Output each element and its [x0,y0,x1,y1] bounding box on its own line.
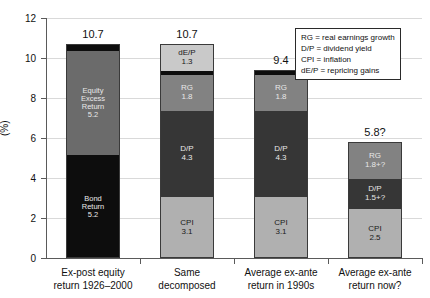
bar-segment: CPI3.1 [161,197,213,258]
y-axis-tick [41,138,46,139]
bar-segment: CPI2.5 [349,209,401,258]
bar-segment-value: 4.3 [275,154,286,163]
x-axis-category-line: Ex-post equity [54,267,133,280]
x-axis-category-label: Samedecomposed [158,267,215,292]
x-axis-tick [328,259,329,264]
legend-entry: dE/P = repricing gains [301,65,395,76]
y-axis-tick-label: 10 [25,53,36,64]
bar-segment-value: 3.1 [181,228,192,237]
bar-segment-divider [161,71,213,75]
legend-entry: RG = real earnings growth [301,32,395,43]
chart-container: 024681012 (%) BondReturn5.2EquityExcessR… [0,0,430,298]
bar-total-label: 9.4 [273,54,288,66]
bar-segment: dE/P1.3 [161,45,213,71]
y-axis-tick [41,58,46,59]
bar-stack: CPI3.1D/P4.3RG1.8 [254,70,308,258]
y-axis-tick [41,258,46,259]
bar-segment-value: 1.8 [181,93,192,102]
x-axis-category-line: return 1926–2000 [54,280,133,293]
legend-box: RG = real earnings growthD/P = dividend … [295,28,401,80]
bar-segment: RG1.8+? [349,143,401,179]
bar-total-label: 5.8? [364,126,385,138]
y-axis-tick [41,18,46,19]
y-axis-labels: 024681012 [0,0,40,298]
x-axis-category-label: Average ex-antereturn now? [338,267,411,292]
bar-segment: D/P4.3 [161,111,213,197]
y-axis-tick-label: 2 [30,213,36,224]
y-axis-tick-label: 8 [30,93,36,104]
bar-segment-value: 4.3 [181,154,192,163]
y-axis-line [46,18,47,259]
bar-segment-value: 3.1 [275,228,286,237]
y-axis-tick-label: 4 [30,173,36,184]
bar-total-label: 10.7 [176,28,197,40]
x-axis-category-label: Average ex-antereturn in 1990s [244,267,317,292]
bar-segment-value: 5.2 [88,211,98,219]
x-axis-category-line: Average ex-ante [338,267,411,280]
bar-segment-value: 2.5 [369,234,380,243]
legend-entry: D/P = dividend yield [301,43,395,54]
y-axis-tick [41,98,46,99]
bar-segment: D/P1.5+? [349,179,401,209]
y-axis-tick [41,178,46,179]
bar-total-label: 10.7 [82,28,103,40]
x-axis-category-line: Average ex-ante [244,267,317,280]
x-axis-category-label: Ex-post equityreturn 1926–2000 [54,267,133,292]
bar-segment-value: 1.8 [275,93,286,102]
bar-stack: CPI2.5D/P1.5+?RG1.8+? [348,142,402,258]
legend-entry: CPI = inflation [301,54,395,65]
x-axis-tick [140,259,141,264]
y-axis-tick-label: 12 [25,13,36,24]
y-axis-title: (%) [0,120,10,136]
bar-segment-value: 1.8+? [365,161,385,170]
x-axis-category-line: decomposed [158,280,215,293]
bar-segment: EquityExcessReturn5.2 [67,51,119,155]
x-axis-tick [234,259,235,264]
bar-segment: BondReturn5.2 [67,155,119,258]
bar-segment-value: 1.3 [181,58,192,67]
y-axis-tick-label: 0 [30,253,36,264]
x-axis-category-line: Same [158,267,215,280]
gridline [46,18,422,19]
y-axis-tick [41,218,46,219]
bar-segment: CPI3.1 [255,197,307,258]
x-axis-category-line: return now? [338,280,411,293]
bar-stack: BondReturn5.2EquityExcessReturn5.2 [66,44,120,258]
bar-segment: RG1.8 [255,75,307,111]
bar-segment: D/P4.3 [255,111,307,197]
x-axis-category-line: return in 1990s [244,280,317,293]
bar-stack: CPI3.1D/P4.3RG1.8dE/P1.3 [160,44,214,258]
y-axis-tick-label: 6 [30,133,36,144]
bar-segment-value: 1.5+? [365,194,385,203]
bar-segment-value: 5.2 [88,111,98,119]
bar-segment-divider [67,45,119,51]
x-axis-tick [422,259,423,264]
bar-segment: RG1.8 [161,75,213,111]
